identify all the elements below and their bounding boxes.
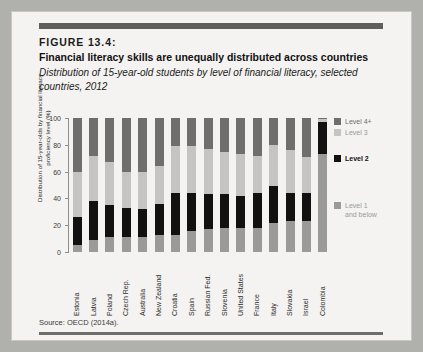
y-tick-label: 60 <box>53 168 61 175</box>
bar-segment <box>236 118 245 154</box>
x-axis-label: Estonia <box>73 254 80 316</box>
bar-segment <box>138 237 147 252</box>
bar-segment <box>318 118 327 119</box>
legend-label: Level 3 <box>345 128 368 137</box>
bar-segment <box>204 194 213 229</box>
bar-segment <box>204 149 213 195</box>
bar-segment <box>73 118 82 172</box>
x-axis-label: Croatia <box>171 254 178 316</box>
bar-segment <box>89 156 98 202</box>
x-axis-label: Australia <box>139 254 146 316</box>
bar-segment <box>105 237 114 252</box>
bar-segment <box>269 186 278 222</box>
bar-segment <box>155 204 164 235</box>
bar-segment <box>236 228 245 252</box>
bar-segment <box>155 235 164 252</box>
y-tick-label: 0 <box>57 249 61 256</box>
bar-segment <box>220 228 229 252</box>
y-tick: 0 <box>65 252 69 253</box>
bar-new-zealand <box>155 118 164 252</box>
bar-segment <box>318 154 327 252</box>
chart-plot: Distribution of 15-year-olds by financia… <box>12 12 411 340</box>
bar-segment <box>286 221 295 252</box>
bar-segment <box>171 193 180 235</box>
bar-italy <box>269 118 278 252</box>
bar-segment <box>105 118 114 162</box>
bar-segment <box>122 172 131 208</box>
bar-segment <box>302 193 311 221</box>
bar-segment <box>122 237 131 252</box>
legend-label: Level 1and below <box>345 201 377 219</box>
bar-segment <box>171 235 180 252</box>
bar-segment <box>187 146 196 193</box>
legend-swatch <box>334 129 341 136</box>
x-axis-label: Czech Rep. <box>122 254 129 316</box>
bar-russian-fed <box>204 118 213 252</box>
bar-segment <box>253 156 262 194</box>
bar-segment <box>253 193 262 228</box>
bar-segment <box>187 118 196 146</box>
bar-slovakia <box>286 118 295 252</box>
bar-estonia <box>73 118 82 252</box>
bar-czech-rep <box>122 118 131 252</box>
x-axis-label: Colombia <box>319 254 326 316</box>
legend-label: Level 2 <box>345 154 369 163</box>
x-axis-label: France <box>253 254 260 316</box>
bar-segment <box>269 145 278 187</box>
y-tick-label: 100 <box>49 115 61 122</box>
bar-segment <box>187 231 196 252</box>
bar-slovenia <box>220 118 229 252</box>
bar-segment <box>236 154 245 196</box>
y-axis-label: Distribution of 15-year-olds by financia… <box>36 71 52 205</box>
bar-segment <box>155 166 164 204</box>
bar-segment <box>302 118 311 157</box>
figure-card: FIGURE 13.4: Financial literacy skills a… <box>12 12 411 340</box>
bar-france <box>253 118 262 252</box>
bar-segment <box>171 118 180 146</box>
x-axis-label: Poland <box>106 254 113 316</box>
y-tick-label: 20 <box>53 222 61 229</box>
x-axis-label: United States <box>237 254 244 316</box>
bar-segment <box>89 240 98 252</box>
bar-segment <box>220 194 229 228</box>
x-axis-label: Israel <box>302 254 309 316</box>
bar-segment <box>138 209 147 237</box>
x-axis-label: Slovakia <box>286 254 293 316</box>
bar-segment <box>286 118 295 150</box>
bar-colombia <box>318 118 327 252</box>
bar-united-states <box>236 118 245 252</box>
bar-segment <box>89 201 98 240</box>
bar-segment <box>122 118 131 172</box>
chart-legend: Level 4+Level 3Level 2Level 1and below <box>334 118 410 252</box>
bar-segment <box>89 118 98 156</box>
x-axis-label: New Zealand <box>155 254 162 316</box>
bar-segment <box>155 118 164 166</box>
bar-segment <box>220 118 229 152</box>
bar-segment <box>204 118 213 149</box>
bar-spain <box>187 118 196 252</box>
bar-segment <box>318 119 327 122</box>
bar-latvia <box>89 118 98 252</box>
plot-area: 020406080100 <box>68 118 331 252</box>
bar-segment <box>236 196 245 228</box>
bar-segment <box>253 118 262 156</box>
bar-segment <box>286 150 295 193</box>
bottom-rule <box>39 332 383 335</box>
x-axis-label: Slovenia <box>221 254 228 316</box>
bar-segment <box>187 193 196 231</box>
bar-segment <box>204 229 213 252</box>
screenshot-root: FIGURE 13.4: Financial literacy skills a… <box>0 0 423 352</box>
bar-australia <box>138 118 147 252</box>
x-axis-label: Spain <box>188 254 195 316</box>
bar-segment <box>171 146 180 193</box>
bar-segment <box>138 172 147 210</box>
bar-segment <box>286 193 295 221</box>
legend-swatch <box>334 118 341 125</box>
bar-segment <box>302 157 311 193</box>
x-axis-label: Latvia <box>90 254 97 316</box>
bar-segment <box>220 152 229 195</box>
bar-segment <box>269 223 278 252</box>
y-tick-label: 40 <box>53 195 61 202</box>
bar-poland <box>105 118 114 252</box>
x-axis-labels: EstoniaLatviaPolandCzech Rep.AustraliaNe… <box>69 254 331 316</box>
